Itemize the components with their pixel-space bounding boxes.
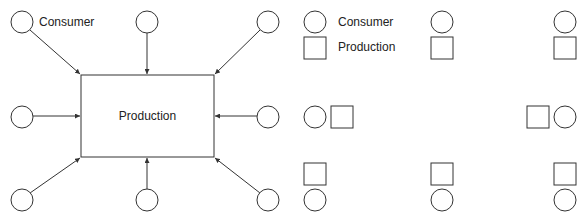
legend-consumer-label: Consumer: [338, 15, 393, 29]
consumer-node: [136, 189, 158, 211]
consumer-node: [11, 189, 33, 211]
production-node: [527, 106, 549, 128]
consumer-node: [554, 189, 576, 211]
production-node: [331, 106, 353, 128]
consumer-node: [257, 189, 279, 211]
consumer-node: [304, 189, 326, 211]
consumer-node: [11, 106, 33, 128]
production-node: [431, 163, 453, 185]
connector-bottom-right: [215, 158, 260, 193]
consumer-node: [304, 11, 326, 33]
consumer-node: [304, 106, 326, 128]
consumer-node: [136, 11, 158, 33]
consumer-node: [554, 106, 576, 128]
production-node: [304, 37, 326, 59]
distributed-diagram: Consumer Production: [304, 11, 576, 211]
consumer-label: Consumer: [39, 15, 94, 29]
consumer-node: [431, 189, 453, 211]
consumer-node: [257, 106, 279, 128]
production-node: [304, 163, 326, 185]
consumer-node: [11, 11, 33, 33]
production-node: [431, 37, 453, 59]
legend-production-label: Production: [338, 40, 395, 54]
production-node: [554, 163, 576, 185]
production-node: [554, 37, 576, 59]
consumer-node: [431, 11, 453, 33]
production-label: Production: [119, 109, 176, 123]
connector-top-left: [30, 30, 80, 74]
connector-top-right: [215, 30, 260, 74]
connector-bottom-left: [30, 158, 80, 193]
centralized-diagram: Production Consumer: [11, 11, 279, 211]
consumer-node: [257, 11, 279, 33]
diagram-canvas: Production Consumer Consumer Production: [0, 0, 583, 220]
consumer-node: [554, 11, 576, 33]
